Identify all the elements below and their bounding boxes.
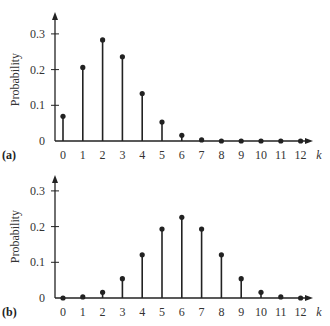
x-tick-label: 3 <box>119 148 125 162</box>
x-axis-arrow-icon <box>305 295 313 301</box>
stem-marker <box>159 226 164 231</box>
stem-marker <box>199 137 204 142</box>
y-tick-label: 0.3 <box>30 27 45 41</box>
x-axis-arrow-icon <box>305 138 313 144</box>
stem-marker <box>179 133 184 138</box>
y-tick-label: 0.3 <box>30 184 45 198</box>
x-tick-label: 8 <box>218 305 224 319</box>
panel-b: 00.10.20.3Probability(b)0123456789101112… <box>2 175 322 319</box>
x-tick-label: 9 <box>238 305 244 319</box>
stem-marker <box>239 276 244 281</box>
x-tick-label: 12 <box>295 305 307 319</box>
panel-a: 00.10.20.3Probability(a)0123456789101112… <box>2 12 322 162</box>
stem-marker <box>219 138 224 143</box>
stem-marker <box>80 65 85 70</box>
stem-marker <box>258 290 263 295</box>
x-tick-label: 10 <box>255 148 267 162</box>
panel-label: (a) <box>2 148 16 162</box>
x-tick-label: 7 <box>199 305 205 319</box>
y-axis-title: Probability <box>8 210 22 263</box>
stem-marker <box>80 294 85 299</box>
panel-label: (b) <box>2 305 17 319</box>
x-tick-label: 0 <box>60 305 66 319</box>
x-tick-label: 1 <box>80 305 86 319</box>
stem-marker <box>159 119 164 124</box>
stem-marker <box>298 295 303 300</box>
x-tick-label: 4 <box>139 305 145 319</box>
stem-marker <box>199 226 204 231</box>
stem-marker <box>239 138 244 143</box>
stem-marker <box>219 252 224 257</box>
stem-marker <box>140 91 145 96</box>
x-tick-label: 11 <box>275 148 287 162</box>
stem-marker <box>60 295 65 300</box>
y-axis-title: Probability <box>8 53 22 106</box>
x-tick-label: 11 <box>275 305 287 319</box>
stem-marker <box>278 294 283 299</box>
x-tick-label: 9 <box>238 148 244 162</box>
stem-marker <box>298 138 303 143</box>
stem-marker <box>120 54 125 59</box>
stem-marker <box>60 114 65 119</box>
y-tick-label: 0.2 <box>30 63 45 77</box>
x-tick-label: 5 <box>159 305 165 319</box>
y-tick-label: 0 <box>39 134 45 148</box>
x-tick-label: 0 <box>60 148 66 162</box>
stem-chart-figure: 00.10.20.3Probability(a)0123456789101112… <box>0 0 330 326</box>
y-tick-label: 0.1 <box>30 255 45 269</box>
x-tick-label: 4 <box>139 148 145 162</box>
x-tick-label: 6 <box>179 305 185 319</box>
x-tick-label: 7 <box>199 148 205 162</box>
stem-marker <box>140 252 145 257</box>
x-tick-label: 2 <box>100 305 106 319</box>
x-tick-label: 1 <box>80 148 86 162</box>
stem-marker <box>120 276 125 281</box>
x-axis-title: k <box>316 305 322 319</box>
stem-marker <box>100 290 105 295</box>
x-tick-label: 2 <box>100 148 106 162</box>
x-axis-title: k <box>316 148 322 162</box>
y-axis-arrow-icon <box>52 175 58 183</box>
y-axis-arrow-icon <box>52 12 58 20</box>
stem-marker <box>179 215 184 220</box>
stem-marker <box>258 138 263 143</box>
x-tick-label: 3 <box>119 305 125 319</box>
stem-marker <box>278 138 283 143</box>
x-tick-label: 10 <box>255 305 267 319</box>
y-tick-label: 0.2 <box>30 220 45 234</box>
y-tick-label: 0.1 <box>30 98 45 112</box>
x-tick-label: 8 <box>218 148 224 162</box>
y-tick-label: 0 <box>39 291 45 305</box>
x-tick-label: 5 <box>159 148 165 162</box>
x-tick-label: 6 <box>179 148 185 162</box>
stem-marker <box>100 37 105 42</box>
x-tick-label: 12 <box>295 148 307 162</box>
